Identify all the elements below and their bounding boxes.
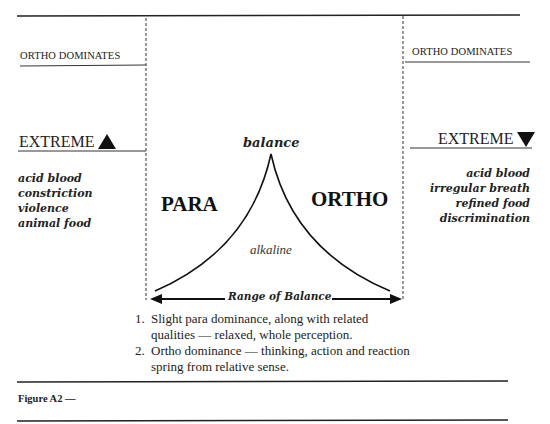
note-line: spring from relative sense. [151, 359, 410, 375]
note-item: 1. Slight para dominance, along with rel… [135, 311, 410, 343]
right-trait: refined food [430, 196, 530, 211]
note-line: Slight para dominance, along with relate… [151, 311, 368, 327]
ortho-label: ORTHO [311, 187, 388, 212]
para-label: PARA [161, 192, 218, 217]
right-trait: acid blood [430, 166, 530, 181]
alkaline-label: alkaline [250, 242, 292, 258]
left-trait: violence [18, 201, 93, 216]
right-trait: discrimination [430, 211, 530, 226]
note-item: 2. Ortho dominance — thinking, action an… [135, 343, 410, 375]
left-trait: animal food [18, 216, 93, 231]
balance-label: balance [243, 135, 300, 150]
figure-caption: Figure A2 — [18, 393, 76, 404]
left-extreme-label: EXTREME [19, 133, 95, 151]
left-ortho-dominates-label: ORTHO DOMINATES [20, 50, 120, 61]
right-extreme-label: EXTREME [438, 130, 514, 148]
right-trait: irregular breath [430, 181, 530, 196]
left-trait: constriction [18, 186, 93, 201]
left-traits-list: acid blood constriction violence animal … [18, 171, 93, 231]
triangle-up-icon [98, 134, 116, 149]
right-traits-list: acid blood irregular breath refined food… [430, 166, 530, 226]
note-number: 1. [135, 311, 151, 343]
left-trait: acid blood [18, 171, 93, 186]
right-ortho-dominates-label: ORTHO DOMINATES [412, 46, 512, 57]
note-line: qualities — relaxed, whole perception. [151, 327, 368, 343]
notes-list: 1. Slight para dominance, along with rel… [135, 311, 410, 375]
note-line: Ortho dominance — thinking, action and r… [151, 343, 410, 359]
triangle-down-icon [517, 132, 535, 147]
note-number: 2. [135, 343, 151, 375]
range-of-balance-label: Range of Balance [228, 290, 331, 302]
